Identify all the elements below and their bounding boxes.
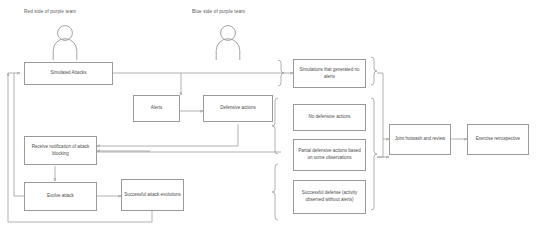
node-simulations-no-alerts[interactable]: Simulations that generated no alerts <box>293 59 366 88</box>
node-partial-defensive-actions[interactable]: Partial defensive actions based on some … <box>293 139 366 171</box>
node-alerts[interactable]: Alerts <box>133 95 180 122</box>
node-joint-hotwash[interactable]: Joint hotwash and review <box>389 124 451 155</box>
node-receive-notification[interactable]: Receive notification of attack blocking <box>24 136 97 165</box>
node-no-defensive-actions[interactable]: No defensive actions <box>293 104 366 131</box>
wire-noalerts-to-hotwash-feed <box>377 73 383 139</box>
brace-outcomes-right <box>371 98 377 210</box>
brace-outcomes-lower <box>272 164 278 220</box>
wire-outcomes-join-hotwash <box>377 139 383 157</box>
node-successful-defense[interactable]: Successful defense (activity observed wi… <box>293 180 366 214</box>
wire-defensive-to-receive <box>97 124 238 146</box>
label-red-side: Red side of purple team <box>24 9 76 14</box>
node-evolve-attack[interactable]: Evolve attack <box>24 182 97 211</box>
node-simulated-attacks[interactable]: Simulated Attacks <box>24 62 113 85</box>
node-defensive-actions[interactable]: Defensive actions <box>203 95 273 122</box>
flowchart-canvas: Red side of purple team Blue side of pur… <box>0 0 538 232</box>
person-icon <box>213 24 243 60</box>
node-successful-attack-evolutions[interactable]: Successful attack evolutions <box>121 179 184 211</box>
label-blue-side: Blue side of purple team <box>192 9 245 14</box>
person-icon <box>50 24 80 60</box>
brace-no-alerts-right <box>371 57 377 85</box>
node-exercise-retrospective[interactable]: Exercise retrospective <box>467 124 529 155</box>
